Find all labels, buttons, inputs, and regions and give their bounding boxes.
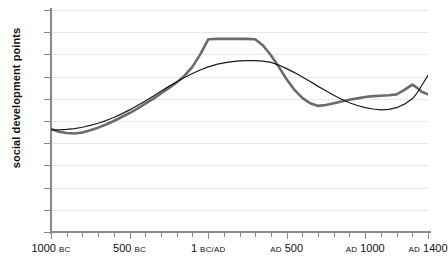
x-axis-tick-label: AD 500	[270, 243, 303, 254]
x-axis-minor-tick	[177, 233, 178, 237]
x-axis-minor-tick	[145, 233, 146, 237]
x-axis-minor-tick	[271, 233, 272, 237]
x-axis-major-tick	[428, 233, 429, 239]
x-axis-minor-tick	[334, 233, 335, 237]
x-axis-minor-tick	[224, 233, 225, 237]
x-axis-minor-tick	[412, 233, 413, 237]
series-line-thick-gray-series	[51, 39, 428, 134]
x-axis-tick-label: 1 BC/AD	[191, 243, 226, 254]
x-axis-major-tick	[208, 233, 209, 239]
x-axis-minor-tick	[114, 233, 115, 237]
x-axis-minor-tick	[381, 233, 382, 237]
y-axis-title: social development points	[10, 3, 22, 193]
plot-area	[51, 10, 428, 232]
x-axis-tick-label: 1000 BC	[31, 243, 70, 254]
x-axis-minor-tick	[240, 233, 241, 237]
x-axis-major-tick	[130, 233, 131, 239]
x-axis-minor-tick	[318, 233, 319, 237]
x-axis-minor-tick	[255, 233, 256, 237]
x-axis-minor-tick	[397, 233, 398, 237]
x-axis-tick-label: AD 1400	[408, 243, 447, 254]
x-axis-minor-tick	[192, 233, 193, 237]
x-axis-minor-tick	[302, 233, 303, 237]
x-axis-minor-tick	[349, 233, 350, 237]
x-axis-minor-tick	[161, 233, 162, 237]
x-axis-major-tick	[287, 233, 288, 239]
x-axis-minor-tick	[98, 233, 99, 237]
x-axis-tick-label: 500 BC	[113, 243, 146, 254]
x-axis-tick-label: AD 1000	[346, 243, 385, 254]
x-axis-major-tick	[365, 233, 366, 239]
x-axis-minor-tick	[67, 233, 68, 237]
x-axis-minor-tick	[82, 233, 83, 237]
series-lines	[51, 10, 428, 232]
x-axis-major-tick	[51, 233, 52, 239]
